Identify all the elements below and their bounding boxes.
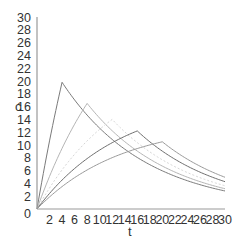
y-tick-label: 10 [17,139,31,153]
y-tick-label: 28 [17,23,31,37]
y-tick-label: 12 [17,126,31,140]
x-tick-label: 2 [46,213,53,227]
y-tick-label: 26 [17,36,31,50]
y-tick-label: 4 [24,177,31,191]
x-axis-tick-labels: 24681012141618202224262830 [46,213,232,227]
y-tick-label: 2 [24,190,31,204]
x-tick-label: 6 [71,213,78,227]
x-tick-label: 4 [59,213,66,227]
y-axis-tick-labels: 024681012141618202224262830 [17,11,31,222]
x-tick-label: 30 [218,213,232,227]
y-tick-label: 0 [24,207,31,221]
y-tick-label: 30 [17,11,31,25]
y-tick-label: 20 [17,75,31,89]
series-line [37,142,225,209]
y-axis-label: c [15,99,22,114]
y-tick-label: 6 [24,164,31,178]
y-tick-label: 22 [17,62,31,76]
series-lines [37,82,225,209]
y-tick-label: 14 [17,113,31,127]
x-axis-label: t [128,224,132,239]
series-line [37,103,225,209]
y-tick-label: 24 [17,49,31,63]
x-tick-label: 8 [84,213,91,227]
concentration-time-chart: 024681012141618202224262830 246810121416… [0,0,240,245]
series-line [37,82,225,209]
y-tick-label: 8 [24,151,31,165]
